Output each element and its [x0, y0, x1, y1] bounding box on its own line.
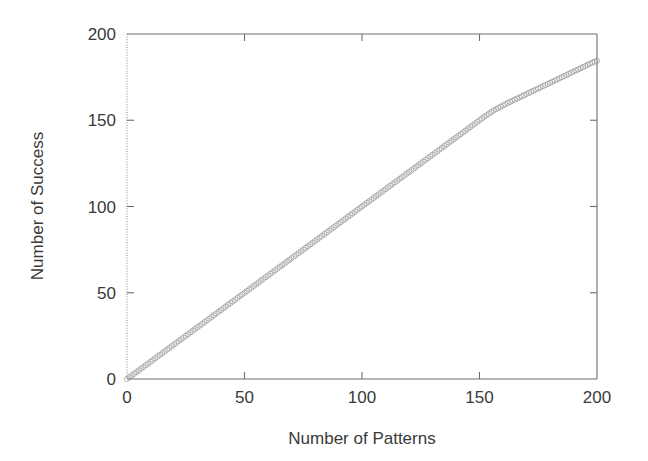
x-tick-label: 200 — [583, 388, 611, 407]
x-tick-label: 0 — [122, 388, 131, 407]
y-tick-label: 200 — [88, 25, 116, 44]
x-tick-label: 50 — [235, 388, 254, 407]
y-tick-label: 50 — [97, 284, 116, 303]
scatter-plot: 050100150200 050100150200 Number of Patt… — [0, 0, 648, 461]
y-axis-label: Number of Success — [28, 132, 47, 280]
y-tick-label: 100 — [88, 198, 116, 217]
x-axis-tick-labels: 050100150200 — [122, 388, 611, 407]
y-tick-label: 150 — [88, 111, 116, 130]
x-axis-label: Number of Patterns — [288, 429, 435, 448]
chart-figure: 050100150200 050100150200 Number of Patt… — [0, 0, 648, 461]
y-axis-tick-labels: 050100150200 — [88, 25, 116, 389]
x-tick-label: 100 — [348, 388, 376, 407]
y-tick-label: 0 — [107, 370, 116, 389]
x-tick-label: 150 — [465, 388, 493, 407]
